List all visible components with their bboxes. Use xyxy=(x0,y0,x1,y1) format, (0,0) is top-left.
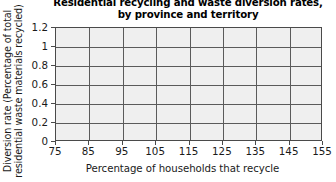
gridline-vertical xyxy=(190,28,191,140)
y-tick-label: 1 xyxy=(8,41,48,51)
gridline-horizontal xyxy=(56,66,321,67)
x-tick-label: 155 xyxy=(302,146,336,156)
x-axis-title: Percentage of households that recycle xyxy=(35,163,330,174)
gridline-vertical xyxy=(223,28,224,140)
y-tick-mark xyxy=(51,46,55,47)
gridline-horizontal xyxy=(56,47,321,48)
y-tick-mark xyxy=(51,65,55,66)
gridline-horizontal xyxy=(56,123,321,124)
gridline-vertical xyxy=(123,28,124,140)
gridline-vertical xyxy=(156,28,157,140)
y-tick-mark xyxy=(51,103,55,104)
gridline-vertical xyxy=(89,28,90,140)
plot-area xyxy=(55,27,322,141)
gridline-vertical xyxy=(290,28,291,140)
y-tick-label: 0.2 xyxy=(8,117,48,127)
chart-title: Residential recycling and waste diversio… xyxy=(46,0,330,21)
y-tick-label: 0 xyxy=(8,136,48,146)
gridline-horizontal xyxy=(56,85,321,86)
y-tick-label: 0.4 xyxy=(8,98,48,108)
y-tick-mark xyxy=(51,122,55,123)
gridline-horizontal xyxy=(56,104,321,105)
y-tick-mark xyxy=(51,84,55,85)
y-tick-mark xyxy=(51,27,55,28)
gridline-vertical xyxy=(256,28,257,140)
y-tick-label: 0.6 xyxy=(8,79,48,89)
y-axis-title-line-1: Diversion rate (Percentage of total xyxy=(3,10,13,172)
y-tick-label: 0.8 xyxy=(8,60,48,70)
y-tick-label: 1.2 xyxy=(8,22,48,32)
